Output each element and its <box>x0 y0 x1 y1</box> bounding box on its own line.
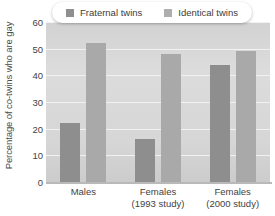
bar-fraternal-1 <box>135 139 155 182</box>
y-axis-tick-label: 50 <box>17 43 43 54</box>
legend-label: Identical twins <box>178 7 238 18</box>
x-axis-tick-label-line2: (2000 study) <box>195 198 270 210</box>
x-axis-line <box>46 182 272 184</box>
y-axis-title: Percentage of co-twins who are gay <box>4 21 15 169</box>
y-axis-tick-label: 40 <box>17 70 43 81</box>
y-axis-tick-label: 60 <box>17 17 43 28</box>
bar-identical-1 <box>161 54 181 182</box>
x-axis-tick-label-group: Females(1993 study) <box>121 186 196 209</box>
x-axis-tick-label-line1: Males <box>71 186 96 197</box>
x-axis-tick-label-line1: Females <box>214 186 250 197</box>
legend-entry-identical[interactable]: Identical twins <box>164 7 238 18</box>
x-axis-tick-label-line1: Females <box>140 186 176 197</box>
bar-identical-0 <box>86 43 106 182</box>
y-axis-tick-label: 20 <box>17 123 43 134</box>
y-axis-tick-label: 10 <box>17 150 43 161</box>
bar-fraternal-2 <box>210 65 230 182</box>
y-axis-title-container: Percentage of co-twins who are gay <box>0 0 18 190</box>
bar-chart-figure: Percentage of co-twins who are gay 01020… <box>0 0 275 216</box>
x-axis-tick-label-group: Females(2000 study) <box>195 186 270 209</box>
plot-area <box>46 22 270 182</box>
bar-identical-2 <box>236 51 256 182</box>
bar-fraternal-0 <box>60 123 80 182</box>
fraternal-swatch-icon <box>66 9 74 17</box>
identical-swatch-icon <box>164 9 172 17</box>
y-axis-tick-label: 0 <box>17 177 43 188</box>
legend-label: Fraternal twins <box>80 7 142 18</box>
chart-legend: Fraternal twinsIdentical twins <box>52 2 252 23</box>
legend-entry-fraternal[interactable]: Fraternal twins <box>66 7 142 18</box>
y-axis-tick-label: 30 <box>17 97 43 108</box>
x-axis-tick-label-group: Males <box>46 186 121 198</box>
x-axis-tick-label-line2: (1993 study) <box>121 198 196 210</box>
gridline <box>46 49 270 50</box>
